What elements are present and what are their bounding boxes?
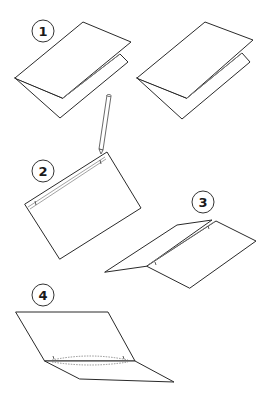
step-number: 1 [38,24,47,39]
step-number: 4 [38,288,47,303]
pencil-icon [99,95,111,155]
step-number: 3 [198,195,207,210]
step-badge-2: 2 [32,160,54,182]
step-3-card [105,220,256,288]
step-badge-4: 4 [32,284,54,306]
back-panel [16,312,135,361]
step-badge-1: 1 [32,20,54,42]
folding-diagram: 1 2 3 4 [0,0,273,396]
step-badge-3: 3 [192,191,214,213]
step-number: 2 [38,164,47,179]
step-1-card-right [137,22,253,119]
step-1-card-left [15,22,131,118]
step-4-card [16,312,174,382]
